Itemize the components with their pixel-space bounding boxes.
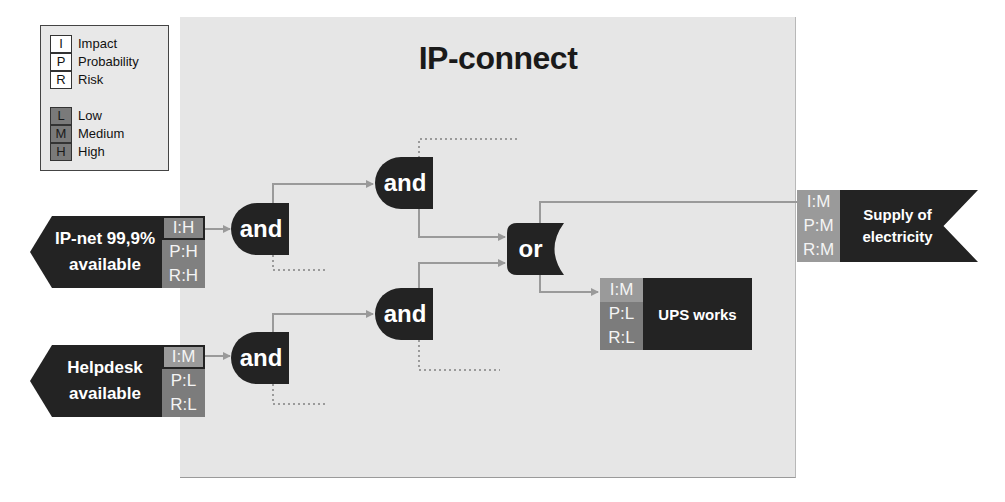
event-label-line1: IP-net 99,9%: [55, 226, 155, 252]
output-event-ups[interactable]: UPS works: [643, 278, 752, 350]
probability-cell: P:M: [797, 214, 840, 238]
probability-cell: P:L: [600, 302, 643, 326]
probability-cell: P:H: [162, 240, 205, 264]
and-gate-2[interactable]: and: [375, 157, 433, 209]
impact-cell: I:M: [600, 278, 643, 302]
and-gate-3[interactable]: and: [375, 288, 433, 340]
impact-cell: I:M: [162, 345, 205, 369]
ipr-badge-ip-net: I:H P:H R:H: [162, 216, 205, 288]
event-label-line1: Supply of: [852, 204, 943, 226]
impact-cell: I:H: [162, 216, 205, 240]
risk-cell: R:M: [797, 238, 840, 262]
and-gate-1[interactable]: and: [231, 203, 289, 255]
risk-cell: R:L: [600, 326, 643, 350]
probability-cell: P:L: [162, 369, 205, 393]
event-label-line2: available: [69, 381, 141, 407]
ipr-badge-ups: I:M P:L R:L: [600, 278, 643, 350]
event-label-line2: available: [69, 252, 141, 278]
ipr-badge-supply: I:M P:M R:M: [797, 190, 840, 262]
risk-cell: R:H: [162, 264, 205, 288]
and-gate-4[interactable]: and: [231, 332, 289, 384]
input-event-ip-net[interactable]: IP-net 99,9% available: [30, 216, 162, 288]
input-event-helpdesk[interactable]: Helpdesk available: [30, 345, 162, 417]
ipr-badge-helpdesk: I:M P:L R:L: [162, 345, 205, 417]
event-label-line1: Helpdesk: [67, 355, 143, 381]
impact-cell: I:M: [797, 190, 840, 214]
risk-cell: R:L: [162, 393, 205, 417]
event-label-line2: electricity: [852, 226, 943, 248]
